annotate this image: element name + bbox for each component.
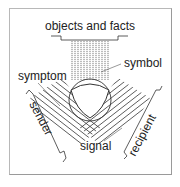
label-recipient: recipient bbox=[125, 111, 159, 158]
label-symbol: symbol bbox=[124, 56, 162, 70]
label-objects-and-facts: objects and facts bbox=[45, 19, 135, 33]
symbol-leader bbox=[101, 64, 121, 72]
signal-leader bbox=[104, 128, 122, 141]
label-symptom: symptom bbox=[18, 69, 67, 83]
objects-bracket bbox=[51, 36, 128, 40]
sign-triangle bbox=[71, 84, 109, 118]
symbol-band bbox=[72, 41, 108, 80]
organon-model-diagram: objects and facts symbol symptom bbox=[0, 0, 180, 187]
label-signal: signal bbox=[80, 139, 111, 153]
label-sender: sender bbox=[26, 99, 56, 138]
